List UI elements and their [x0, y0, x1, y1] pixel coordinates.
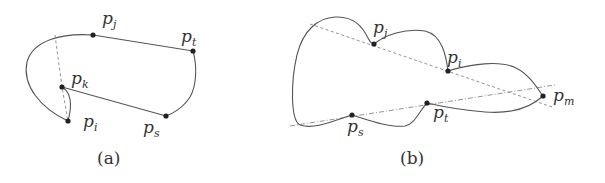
panel-b-caption: (b)	[400, 148, 424, 168]
panel-a-point-pk	[59, 84, 64, 89]
panel-b-dashed-line-lower	[290, 85, 555, 126]
panel-a-curve-pt-ps	[166, 51, 196, 116]
panel-b-label-pj: pj	[373, 17, 388, 40]
panel-a-label-pt: pt	[181, 26, 197, 49]
panel-b-label-pm: pm	[553, 85, 574, 108]
panel-a-label-ps: ps	[143, 117, 160, 140]
panel-a-caption: (a)	[97, 148, 120, 168]
panel-b: pj pi pm pt ps (b)	[290, 17, 574, 168]
panel-b-label-pt: pt	[433, 102, 449, 125]
panel-b-point-pt	[424, 100, 429, 105]
panel-b-point-pm	[540, 93, 545, 98]
panel-a-point-pi	[65, 118, 70, 123]
panel-b-label-pi: pi	[447, 47, 461, 70]
panel-b-point-pi	[445, 68, 450, 73]
panel-a-dashed-line	[55, 35, 68, 121]
panel-a-label-pi: pi	[83, 111, 97, 134]
panel-b-curve-pi-pm	[448, 64, 543, 96]
panel-a-point-pt	[190, 48, 195, 53]
panel-a-segment-pj-pt	[93, 35, 193, 51]
panel-b-curve-pm-pt	[427, 96, 543, 112]
panel-a-segment-ps-pk	[62, 87, 166, 116]
panel-b-curve-ps-pj	[292, 17, 374, 126]
panel-a-point-ps	[163, 113, 168, 118]
panel-a-label-pk: pk	[71, 68, 89, 91]
panel-a: pj pt pk pi ps (a)	[26, 8, 197, 168]
panel-b-point-pj	[371, 41, 376, 46]
figure: pj pt pk pi ps (a) pj pi pm pt ps (b)	[0, 0, 605, 183]
panel-b-label-ps: ps	[347, 116, 364, 139]
panel-b-dashed-line-upper	[310, 24, 552, 107]
panel-a-point-pj	[90, 32, 95, 37]
panel-a-label-pj: pj	[102, 8, 117, 31]
